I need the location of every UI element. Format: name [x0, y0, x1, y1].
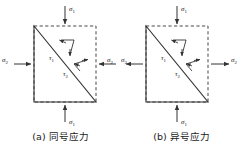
panel-a-drawing: σ1 σ1 σ2 σ2 τ1 τ2: [0, 0, 121, 134]
tau1-label: τ1: [49, 54, 55, 63]
wedge-triangle-solid: [146, 26, 208, 102]
panel-b-drawing: σ1 σ1 σ2 σ2 τ1 τ2: [121, 0, 242, 134]
panel-a-caption-text: (a) 同号应力: [32, 131, 88, 142]
tau1-couple-path: [173, 40, 186, 55]
panel-b: σ1 σ1 σ2 σ2 τ1 τ2 (b) 异号应力: [121, 0, 242, 156]
panel-b-caption-text: (b) 异号应力: [153, 131, 209, 142]
sigma1-bottom-label: σ1: [69, 118, 75, 127]
tau2-couple-path: [74, 60, 87, 71]
panel-a-caption: (a) 同号应力: [0, 131, 121, 143]
tau1-label: τ1: [161, 54, 167, 63]
stress-diagram-figure: σ1 σ1 σ2 σ2 τ1 τ2 (a) 同号应力: [0, 0, 242, 156]
sigma1-top-label: σ1: [69, 5, 75, 14]
sigma2-left-label: σ2: [121, 56, 127, 65]
tau1-couple-path: [61, 40, 74, 55]
sigma2-left-label: σ2: [2, 56, 8, 65]
wedge-triangle-solid: [34, 26, 96, 102]
tau2-couple-path: [186, 60, 199, 71]
sigma2-right-label: σ2: [107, 56, 113, 65]
tau2-label: τ2: [175, 70, 181, 79]
sigma1-bottom-label: σ1: [181, 118, 187, 127]
panel-a: σ1 σ1 σ2 σ2 τ1 τ2 (a) 同号应力: [0, 0, 121, 156]
tau2-label: τ2: [63, 70, 69, 79]
panel-b-caption: (b) 异号应力: [121, 131, 242, 143]
sigma2-right-label: σ2: [231, 56, 237, 65]
sigma1-top-label: σ1: [181, 5, 187, 14]
